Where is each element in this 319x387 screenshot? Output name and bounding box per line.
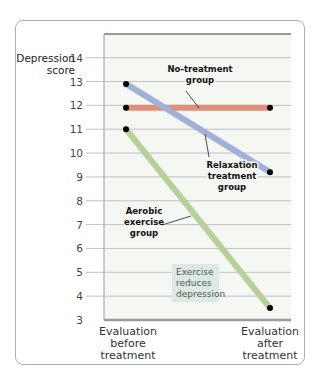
note-text: Exercise xyxy=(176,267,214,277)
data-point xyxy=(267,105,273,111)
line-chart: 34567891011121314DepressionscoreExercise… xyxy=(0,0,319,387)
aerobic-label: Aerobic xyxy=(126,206,162,216)
y-tick-label: 11 xyxy=(70,123,83,135)
y-tick-label: 6 xyxy=(76,242,83,254)
y-tick-label: 12 xyxy=(70,99,83,111)
note-text: depression xyxy=(176,289,225,299)
y-tick-label: 9 xyxy=(76,171,83,183)
y-axis-label: score xyxy=(47,64,75,76)
y-tick-label: 3 xyxy=(76,314,83,326)
y-tick-label: 10 xyxy=(70,147,83,159)
relaxation-label: treatment xyxy=(208,171,257,181)
aerobic-label: group xyxy=(130,228,158,238)
y-tick-label: 5 xyxy=(76,266,83,278)
y-tick-label: 4 xyxy=(76,290,83,302)
x-label-before: treatment xyxy=(100,349,156,362)
relaxation-label: Relaxation xyxy=(206,160,257,170)
x-label-after: treatment xyxy=(242,349,298,362)
data-point xyxy=(123,126,129,132)
data-point xyxy=(123,81,129,87)
y-tick-label: 8 xyxy=(76,195,83,207)
aerobic-label: exercise xyxy=(124,217,164,227)
data-point xyxy=(123,105,129,111)
data-point xyxy=(267,169,273,175)
y-tick-label: 13 xyxy=(70,76,83,88)
relaxation-label: group xyxy=(218,182,246,192)
no-treatment-label: group xyxy=(186,75,214,85)
y-axis-label: Depression xyxy=(16,52,75,64)
no-treatment-label: No-treatment xyxy=(167,64,232,74)
note-text: reduces xyxy=(176,278,212,288)
data-point xyxy=(267,305,273,311)
y-tick-label: 7 xyxy=(76,219,83,231)
